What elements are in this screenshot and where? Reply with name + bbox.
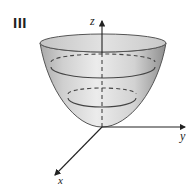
paraboloid-diagram	[0, 0, 196, 190]
paraboloid-surface	[40, 43, 166, 127]
z-axis-label: z	[90, 14, 95, 29]
rim-ellipse	[40, 34, 166, 52]
x-axis	[55, 127, 102, 175]
paraboloid-figure: III z y x	[0, 0, 196, 190]
y-axis-label: y	[180, 129, 185, 144]
x-axis-label: x	[58, 174, 63, 186]
panel-label: III	[13, 14, 27, 31]
